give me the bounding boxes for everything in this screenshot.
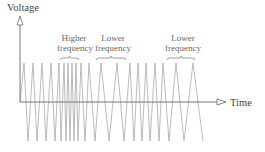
y-axis-label: Voltage (7, 2, 39, 13)
annotation-line1: Lower (163, 33, 203, 43)
y-axis-arrow-icon (17, 16, 23, 25)
annotation-braces (60, 56, 195, 60)
annotation-line1: Higher (57, 33, 91, 43)
annotation-lower-frequency-2: Lower frequency (163, 33, 203, 53)
annotation-line2: frequency (163, 43, 203, 53)
axes (17, 16, 226, 105)
brace-1 (96, 56, 126, 60)
brace-2 (167, 56, 195, 60)
annotation-line1: Lower (93, 33, 133, 43)
x-axis-arrow-icon (217, 99, 226, 105)
frequency-diagram (0, 0, 265, 152)
annotation-lower-frequency-1: Lower frequency (93, 33, 133, 53)
annotation-higher-frequency: Higher frequency (57, 33, 91, 53)
x-axis-label: Time (230, 97, 252, 108)
brace-0 (60, 56, 79, 60)
annotation-line2: frequency (57, 43, 91, 53)
annotation-line2: frequency (93, 43, 133, 53)
